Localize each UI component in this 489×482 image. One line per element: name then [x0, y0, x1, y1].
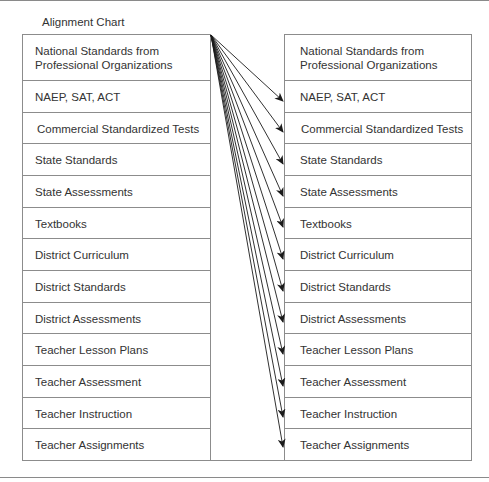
arrow-to-textbooks — [211, 35, 283, 227]
bottom-rule — [0, 477, 489, 478]
arrow-to-teacher-assignments — [211, 35, 283, 447]
arrow-to-district-assessments — [211, 35, 283, 322]
arrow-to-state-assessments — [211, 35, 283, 196]
alignment-arrows — [0, 0, 489, 482]
arrow-to-district-standards — [211, 35, 283, 291]
arrow-to-state-standards — [211, 35, 283, 164]
arrow-to-teacher-assessment — [211, 35, 283, 386]
